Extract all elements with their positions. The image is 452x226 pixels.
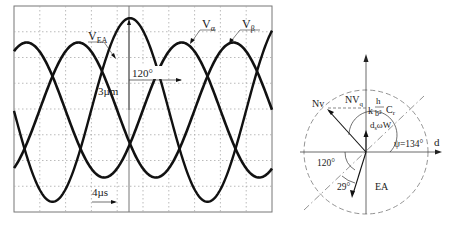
time-label: 4µs — [92, 186, 108, 198]
nv-label: Nv — [312, 98, 324, 109]
phase-label: 120° — [132, 67, 153, 79]
d-axis-arrow-icon — [435, 150, 442, 155]
b2-label: b² — [375, 109, 382, 118]
cr-label: Cr — [386, 104, 396, 117]
small-up-arrow-icon — [364, 130, 369, 137]
ea-arrow-icon — [350, 190, 355, 198]
oscilloscope-panel: VEA Vα Vβ 120° 3µm 4µs — [14, 6, 272, 212]
dsw-label: dsωW — [370, 120, 392, 131]
amplitude-label: 3µm — [98, 85, 119, 97]
k-label: k — [368, 105, 373, 116]
figure: VEA Vα Vβ 120° 3µm 4µs d — [0, 0, 452, 226]
nv-arrow-icon — [327, 109, 334, 115]
h-label: h — [376, 96, 381, 106]
psi-label: ψ=134° — [394, 139, 424, 149]
ea-label: EA — [375, 181, 389, 192]
angle-120-label: 120° — [317, 158, 335, 168]
d-axis-label: d — [434, 136, 440, 148]
angle-29-label: 29° — [337, 182, 351, 192]
q-axis-arrow-icon — [364, 54, 369, 62]
vector-diagram: d Nv NVq k h b² Cr dsωW ψ=134° 120° — [300, 54, 442, 214]
nvq-label: NVq — [345, 94, 363, 108]
